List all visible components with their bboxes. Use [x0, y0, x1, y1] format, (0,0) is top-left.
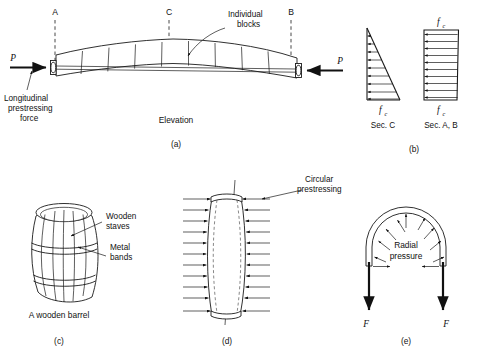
- barrel-title: A wooden barrel: [29, 310, 90, 320]
- circular-prestressing-line-2: prestressing: [297, 185, 342, 194]
- section-label-c: C: [166, 7, 172, 17]
- panel-d-caption: (d): [222, 336, 232, 346]
- elevation-label: Elevation: [159, 115, 194, 125]
- section-c-name: Sec. C: [371, 121, 396, 130]
- force-symbol-left-e: F: [362, 319, 369, 329]
- wooden-staves-line-1: Wooden: [106, 212, 137, 221]
- section-ab-name: Sec. A, B: [424, 121, 458, 130]
- engineering-figure: A C B: [0, 0, 483, 361]
- barrel-body: [32, 209, 98, 302]
- section-label-a: A: [52, 7, 58, 17]
- section-ab-stress-subscript-bottom: c: [443, 110, 446, 117]
- anchorage-plate-left: [51, 61, 57, 75]
- figure-root: A C B: [0, 0, 483, 361]
- force-symbol-right: P: [336, 56, 343, 66]
- radial-pressure-line-1: Radial: [394, 240, 418, 250]
- section-c-stress-subscript: c: [385, 110, 388, 117]
- panel-c-caption: (c): [54, 336, 64, 346]
- longitudinal-force-line-3: force: [20, 114, 39, 123]
- force-symbol-right-e: F: [442, 319, 449, 329]
- longitudinal-force-line-1: Longitudinal: [4, 94, 48, 103]
- panel-e-caption: (e): [401, 336, 411, 346]
- panel-b-caption: (b): [409, 144, 419, 154]
- individual-blocks-line-2: blocks: [237, 20, 260, 29]
- force-symbol-left: P: [9, 53, 16, 63]
- individual-blocks-line-1: Individual: [228, 10, 263, 19]
- longitudinal-force-line-2: prestressing: [8, 104, 53, 113]
- metal-bands-line-1: Metal: [110, 243, 130, 252]
- section-label-b: B: [288, 7, 294, 17]
- radial-pressure-line-2: pressure: [390, 251, 423, 261]
- callout-radial-pressure: Radial pressure: [390, 240, 423, 261]
- anchorage-plate-right: [296, 64, 302, 78]
- panel-a-caption: (a): [171, 139, 181, 149]
- metal-bands-line-2: bands: [110, 253, 132, 262]
- wooden-staves-line-2: staves: [106, 222, 130, 231]
- circular-prestressing-line-1: Circular: [305, 175, 333, 184]
- section-ab-stress-subscript-top: c: [443, 22, 446, 29]
